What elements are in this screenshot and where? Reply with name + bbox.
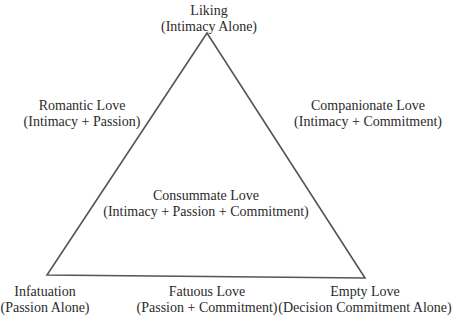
- label-empty-love-components: (Decision Commitment Alone): [278, 300, 451, 316]
- label-fatuous-love-name: Fatuous Love: [137, 284, 278, 300]
- label-infatuation-name: Infatuation: [0, 284, 89, 300]
- label-romantic-love-components: (Intimacy + Passion): [24, 114, 141, 130]
- label-liking-name: Liking: [161, 3, 257, 19]
- label-companionate-love-name: Companionate Love: [294, 98, 442, 114]
- label-liking: Liking (Intimacy Alone): [161, 3, 257, 35]
- label-infatuation-components: (Passion Alone): [0, 300, 89, 316]
- label-empty-love-name: Empty Love: [278, 284, 451, 300]
- label-consummate-love-components: (Intimacy + Passion + Commitment): [103, 204, 309, 220]
- label-romantic-love: Romantic Love (Intimacy + Passion): [24, 98, 141, 130]
- label-fatuous-love-components: (Passion + Commitment): [137, 300, 278, 316]
- label-companionate-love-components: (Intimacy + Commitment): [294, 114, 442, 130]
- label-infatuation: Infatuation (Passion Alone): [0, 284, 89, 316]
- label-consummate-love-name: Consummate Love: [103, 188, 309, 204]
- label-romantic-love-name: Romantic Love: [24, 98, 141, 114]
- label-fatuous-love: Fatuous Love (Passion + Commitment): [137, 284, 278, 316]
- label-liking-components: (Intimacy Alone): [161, 19, 257, 35]
- label-consummate-love: Consummate Love (Intimacy + Passion + Co…: [103, 188, 309, 220]
- label-companionate-love: Companionate Love (Intimacy + Commitment…: [294, 98, 442, 130]
- label-empty-love: Empty Love (Decision Commitment Alone): [278, 284, 451, 316]
